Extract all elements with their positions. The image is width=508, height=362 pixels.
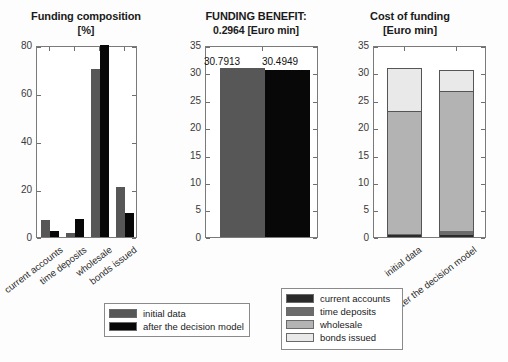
panel3-ytick-label: 10 (345, 178, 369, 188)
panel3-ytick-label: 5 (345, 205, 369, 215)
panel2-ytick-mark (206, 184, 210, 185)
panel3-title-line2: [Euro min] (326, 24, 494, 37)
panel1-xtick-mark (74, 47, 75, 51)
panel3-ytick-mark (481, 129, 485, 130)
panel1-ytick-mark (132, 95, 136, 96)
panel2-ytick-label: 10 (177, 178, 201, 188)
bar-model-bonds-issued (125, 213, 134, 237)
panel-cost-of-funding: Cost of funding [Euro min] (340, 0, 508, 330)
panel2-ytick-label: 30 (177, 68, 201, 78)
legend-swatch-current-accounts (286, 294, 314, 303)
panel3-ytick-mark (374, 211, 378, 212)
legend-label-time-deposits: time deposits (320, 306, 376, 317)
panel3-ytick-label: 30 (345, 68, 369, 78)
panel1-ytick-label: 0 (8, 233, 32, 243)
panel1-ytick-mark (132, 238, 136, 239)
panel1-ytick-mark (132, 143, 136, 144)
panel3-ytick-mark (481, 184, 485, 185)
panel2-ytick-mark (313, 184, 317, 185)
panel1-ytick-mark (37, 47, 41, 48)
legend-row[interactable]: wholesale (286, 318, 397, 331)
panel2-ytick-label: 0 (177, 233, 201, 243)
panel1-ytick-mark (132, 47, 136, 48)
panel-funding-composition: Funding composition [%] (0, 0, 172, 330)
panel3-ytick-label: 0 (345, 233, 369, 243)
panel2-ytick-mark (206, 129, 210, 130)
panel2-ytick-mark (313, 102, 317, 103)
panel2-ytick-label: 20 (177, 123, 201, 133)
panel2-ytick-mark (206, 157, 210, 158)
panel2-ytick-mark (313, 129, 317, 130)
panel1-title-line1: Funding composition (0, 10, 172, 23)
panel2-plot-area (205, 46, 318, 238)
panel1-ytick-label: 20 (8, 185, 32, 195)
panel3-ytick-mark (374, 157, 378, 158)
panel3-ytick-mark (374, 74, 378, 75)
legend-label-initial-data: initial data (143, 308, 186, 319)
panel2-ytick-mark (313, 74, 317, 75)
legend-swatch-initial-data (109, 309, 137, 318)
panel3-title-line1: Cost of funding (326, 10, 494, 23)
legend-swatch-time-deposits (286, 307, 314, 316)
panel2-ytick-mark (313, 47, 317, 48)
panel3-ytick-mark (374, 129, 378, 130)
panel2-ytick-mark (206, 74, 210, 75)
panel1-xtick-mark (49, 47, 50, 51)
legend-label-bonds-issued: bonds issued (320, 332, 376, 343)
panel3-ytick-label: 25 (345, 96, 369, 106)
panel3-xtick-mark (456, 47, 457, 51)
panel2-xtick-mark (262, 47, 263, 51)
panel3-ytick-mark (374, 102, 378, 103)
panel1-plot-area (36, 46, 137, 238)
panel2-title-line1: FUNDING BENEFIT: (172, 10, 340, 23)
panel1-ytick-label: 40 (8, 137, 32, 147)
panel2-ytick-label: 25 (177, 96, 201, 106)
bar-initial-wholesale (91, 69, 100, 237)
panel3-ytick-mark (481, 47, 485, 48)
panel1-ytick-mark (132, 191, 136, 192)
bar-after-decision-model (265, 70, 310, 237)
bar-model-time-deposits (75, 219, 84, 237)
bar-model-wholesale (100, 45, 109, 237)
bar-value-label-initial: 30.7913 (194, 56, 250, 67)
panel1-ytick-mark (37, 143, 41, 144)
panel3-ytick-mark (481, 238, 485, 239)
panel2-ytick-mark (313, 238, 317, 239)
figure-canvas: Funding composition [%] (0, 0, 508, 362)
legend-stack: current accounts time deposits wholesale… (281, 288, 403, 350)
legend-label-after-decision-model: after the decision model (143, 321, 244, 332)
panel2-ytick-mark (206, 102, 210, 103)
bar-initial-current-accounts (41, 220, 50, 237)
panel1-ytick-label: 60 (8, 89, 32, 99)
panel2-ytick-mark (313, 211, 317, 212)
legend-row[interactable]: time deposits (286, 305, 397, 318)
legend-row[interactable]: initial data (109, 307, 244, 320)
bar-initial-data (220, 68, 265, 237)
bar-initial-bonds-issued (116, 187, 125, 237)
panel3-ytick-mark (481, 157, 485, 158)
panel3-ytick-label: 15 (345, 151, 369, 161)
legend-series: initial data after the decision model (104, 303, 250, 337)
panel1-xtick-mark (124, 47, 125, 51)
legend-row[interactable]: bonds issued (286, 331, 397, 344)
legend-row[interactable]: after the decision model (109, 320, 244, 333)
panel1-ytick-mark (37, 95, 41, 96)
legend-label-wholesale: wholesale (320, 319, 362, 330)
legend-label-current-accounts: current accounts (320, 293, 390, 304)
panel3-plot-area (373, 46, 486, 238)
panel2-ytick-mark (206, 238, 210, 239)
panel1-ytick-mark (37, 191, 41, 192)
panel3-xtick-label: initial data (383, 244, 424, 279)
legend-row[interactable]: current accounts (286, 292, 397, 305)
panel3-ytick-label: 20 (345, 123, 369, 133)
panel2-ytick-mark (206, 211, 210, 212)
panel3-ytick-mark (374, 238, 378, 239)
panel3-ytick-mark (374, 47, 378, 48)
panel2-ytick-label: 35 (177, 41, 201, 51)
panel2-ytick-label: 5 (177, 205, 201, 215)
panel-funding-benefit: FUNDING BENEFIT: 0.2964 [Euro min] (172, 0, 340, 330)
panel2-ytick-mark (206, 47, 210, 48)
stack-model-wholesale (439, 91, 474, 237)
panel2-ytick-label: 15 (177, 151, 201, 161)
panel3-ytick-mark (481, 102, 485, 103)
